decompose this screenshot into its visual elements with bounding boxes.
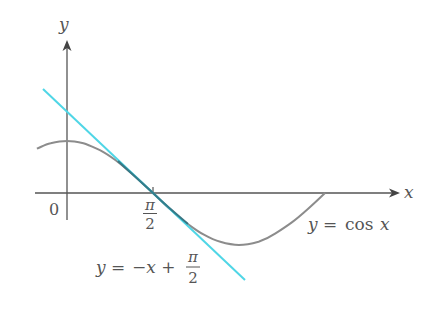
cos-label-eq: = <box>323 214 337 234</box>
tick-denominator: 2 <box>145 215 155 233</box>
cos-curve-label: y = cos x <box>307 214 390 234</box>
tangent-label-den: 2 <box>188 269 198 287</box>
tangent-label-eq: = <box>111 257 125 277</box>
tangent-label-y: y <box>95 257 106 277</box>
x-tick-label-pi-over-2: π 2 <box>143 196 157 233</box>
tangent-label-rhs: −x + <box>132 257 175 277</box>
tangent-label-num: π <box>187 248 199 266</box>
tick-numerator: π <box>144 196 156 214</box>
x-axis <box>35 189 400 198</box>
tangent-line-label: y = −x + π 2 <box>95 248 200 287</box>
cos-tangent-diagram: y x 0 π 2 y = cos x y = −x + π 2 <box>0 0 439 309</box>
cos-label-var: x <box>380 214 390 234</box>
origin-label: 0 <box>49 200 59 219</box>
x-axis-label: x <box>404 182 414 202</box>
y-axis-label: y <box>58 14 69 34</box>
cos-label-y: y <box>307 214 318 234</box>
cos-label-fn: cos <box>345 214 373 234</box>
